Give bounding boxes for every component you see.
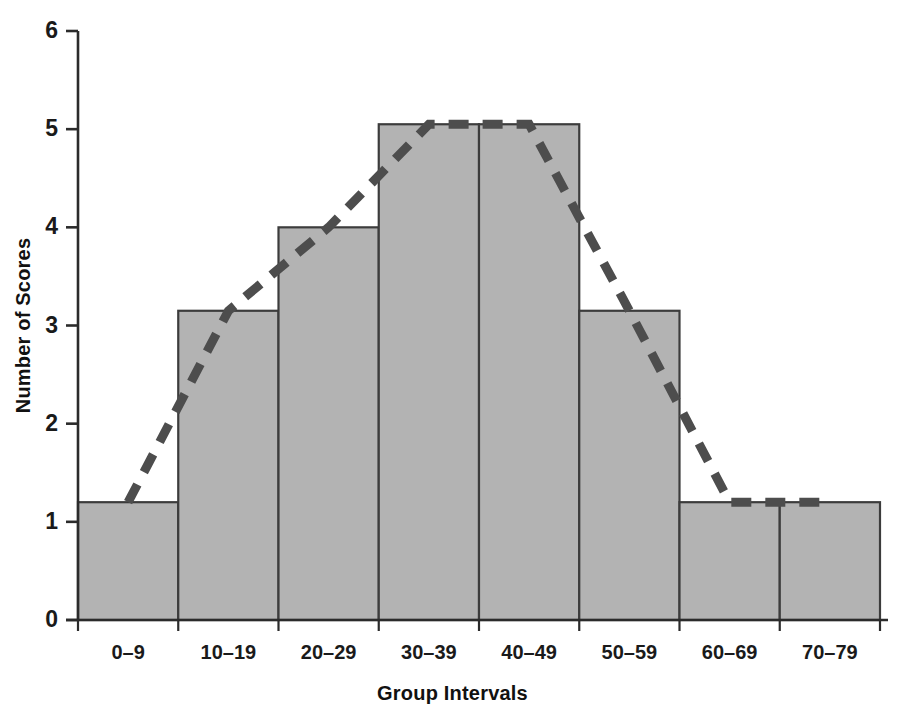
x-tick-label: 0–9: [78, 642, 178, 662]
bar: [680, 502, 780, 620]
x-tick-label: 40–49: [479, 642, 579, 662]
x-tick-label: 20–29: [279, 642, 379, 662]
bar: [780, 502, 880, 620]
bar: [579, 311, 679, 620]
x-axis-title: Group Intervals: [0, 682, 905, 705]
x-tick-label: 30–39: [379, 642, 479, 662]
y-tick-label: 0: [20, 608, 58, 631]
x-tick-label: 10–19: [178, 642, 278, 662]
bar: [279, 227, 379, 620]
y-tick-label: 6: [20, 19, 58, 42]
y-axis-title: Number of Scores: [12, 230, 35, 420]
bar: [78, 502, 178, 620]
chart-canvas: [0, 0, 905, 722]
x-tick-label: 60–69: [680, 642, 780, 662]
histogram-chart: 0123456 0–910–1920–2930–3940–4950–5960–6…: [0, 0, 905, 722]
y-tick-label: 5: [20, 117, 58, 140]
x-tick-label: 70–79: [780, 642, 880, 662]
bar: [178, 311, 278, 620]
x-tick-label: 50–59: [579, 642, 679, 662]
y-tick-label: 1: [20, 510, 58, 533]
bar: [479, 124, 579, 620]
bar: [379, 124, 479, 620]
